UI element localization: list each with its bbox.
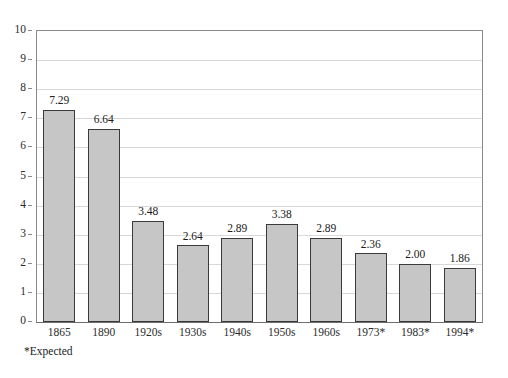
bars-layer: 7.296.643.482.642.893.382.892.362.001.86 <box>37 31 482 322</box>
y-tick-mark <box>28 263 32 264</box>
y-tick-label: 9 <box>20 53 26 65</box>
x-tick-label: 1920s <box>126 327 171 339</box>
bar-value-label: 2.36 <box>361 239 381 251</box>
bar-rect[interactable] <box>266 224 298 322</box>
y-tick-label: 4 <box>20 199 26 211</box>
bar-value-label: 2.00 <box>405 249 425 261</box>
y-tick-label: 5 <box>20 170 26 182</box>
x-tick-label: 1994* <box>438 327 483 339</box>
bar[interactable]: 7.29 <box>43 31 75 322</box>
bar[interactable]: 2.89 <box>310 31 342 322</box>
bar[interactable]: 6.64 <box>88 31 120 322</box>
bar-rect[interactable] <box>88 129 120 322</box>
x-tick-label: 1930s <box>171 327 216 339</box>
bar-rect[interactable] <box>177 245 209 322</box>
y-tick-label: 7 <box>20 112 26 124</box>
y-tick-mark <box>28 30 32 31</box>
y-tick-label: 2 <box>20 257 26 269</box>
bar-rect[interactable] <box>43 110 75 322</box>
bar-value-label: 2.89 <box>227 223 247 235</box>
bar-rect[interactable] <box>444 268 476 322</box>
x-axis: 186518901920s1930s1940s1950s1960s1973*19… <box>37 327 482 343</box>
y-tick-mark <box>28 88 32 89</box>
y-tick-mark <box>28 205 32 206</box>
bar[interactable]: 2.00 <box>399 31 431 322</box>
bar[interactable]: 3.48 <box>132 31 164 322</box>
y-tick-label: 1 <box>20 286 26 298</box>
bar-rect[interactable] <box>355 253 387 322</box>
bar-value-label: 6.64 <box>94 114 114 126</box>
x-tick-label: 1940s <box>215 327 260 339</box>
x-tick-label: 1973* <box>349 327 394 339</box>
bar-rect[interactable] <box>399 264 431 322</box>
bar-rect[interactable] <box>221 238 253 322</box>
bar-value-label: 1.86 <box>450 253 470 265</box>
y-axis: 109876543210 <box>0 30 32 323</box>
x-tick-label: 1950s <box>260 327 305 339</box>
y-tick-label: 10 <box>15 24 27 36</box>
y-tick-mark <box>28 59 32 60</box>
bar-rect[interactable] <box>132 221 164 322</box>
x-tick-label: 1890 <box>82 327 127 339</box>
y-tick-mark <box>28 146 32 147</box>
bar[interactable]: 3.38 <box>266 31 298 322</box>
bar[interactable]: 1.86 <box>444 31 476 322</box>
bar-value-label: 3.48 <box>138 206 158 218</box>
y-tick-mark <box>28 234 32 235</box>
bar-value-label: 2.64 <box>183 231 203 243</box>
x-tick-label: 1983* <box>393 327 438 339</box>
y-tick-label: 6 <box>20 141 26 153</box>
y-tick-mark <box>28 176 32 177</box>
bar[interactable]: 2.36 <box>355 31 387 322</box>
y-tick-label: 8 <box>20 82 26 94</box>
y-tick-mark <box>28 321 32 322</box>
x-tick-label: 1960s <box>304 327 349 339</box>
bar-value-label: 3.38 <box>272 209 292 221</box>
y-tick-label: 3 <box>20 228 26 240</box>
bar-value-label: 2.89 <box>316 223 336 235</box>
bar[interactable]: 2.89 <box>221 31 253 322</box>
y-tick-mark <box>28 292 32 293</box>
bar-chart: 109876543210 7.296.643.482.642.893.382.8… <box>0 0 508 378</box>
bar-rect[interactable] <box>310 238 342 322</box>
y-tick-mark <box>28 117 32 118</box>
bar[interactable]: 2.64 <box>177 31 209 322</box>
x-tick-label: 1865 <box>37 327 82 339</box>
y-tick-label: 0 <box>20 315 26 327</box>
footnote: *Expected <box>24 346 73 358</box>
bar-value-label: 7.29 <box>49 95 69 107</box>
